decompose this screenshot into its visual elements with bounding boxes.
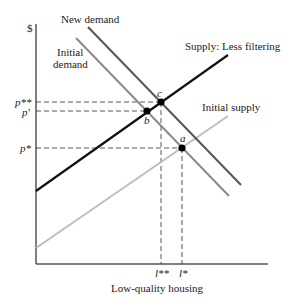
chart-canvas: $ New demand Initial demand Supply: Less… xyxy=(0,0,283,300)
x-axis-label: Low-quality housing xyxy=(111,282,203,294)
tick-p-star: p* xyxy=(19,142,32,154)
initial-demand-line xyxy=(76,38,229,196)
point-a-label: a xyxy=(180,132,186,144)
new-demand-label: New demand xyxy=(61,13,120,25)
point-a xyxy=(178,144,185,151)
point-b-label: b xyxy=(144,114,150,126)
tick-l-star: l* xyxy=(179,267,188,279)
initial-demand-label-line1: Initial xyxy=(57,46,83,58)
point-c-label: c xyxy=(157,87,162,99)
point-c xyxy=(157,98,164,105)
dashed-guides xyxy=(36,102,182,264)
y-axis-label: $ xyxy=(27,22,33,34)
tick-p-prime: p' xyxy=(21,106,31,118)
less-filtering-supply-line xyxy=(36,55,228,191)
supply-demand-diagram: $ New demand Initial demand Supply: Less… xyxy=(0,0,283,300)
tick-l-double-star: l** xyxy=(155,267,170,279)
initial-supply-label: Initial supply xyxy=(202,101,261,113)
initial-supply-line xyxy=(36,116,228,248)
initial-demand-label-line2: demand xyxy=(53,58,88,70)
supply-less-filtering-label: Supply: Less filtering xyxy=(185,40,281,52)
